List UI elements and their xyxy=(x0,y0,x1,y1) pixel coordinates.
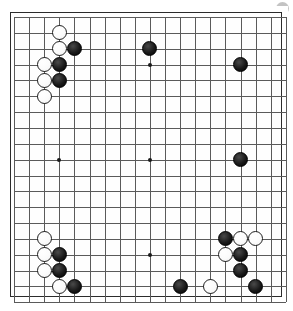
stone-white[interactable] xyxy=(203,279,218,294)
stone-white[interactable] xyxy=(248,231,263,246)
stone-white[interactable] xyxy=(37,247,52,262)
stone-black[interactable] xyxy=(173,279,188,294)
stone-black[interactable] xyxy=(248,279,263,294)
stone-white[interactable] xyxy=(37,231,52,246)
stone-white[interactable] xyxy=(233,231,248,246)
stone-black[interactable] xyxy=(142,41,157,56)
stone-black[interactable] xyxy=(233,57,248,72)
stone-black[interactable] xyxy=(233,263,248,278)
stone-black[interactable] xyxy=(233,152,248,167)
stone-black[interactable] xyxy=(52,73,67,88)
stone-white[interactable] xyxy=(37,57,52,72)
stone-white[interactable] xyxy=(37,263,52,278)
stone-black[interactable] xyxy=(233,247,248,262)
stone-black[interactable] xyxy=(218,231,233,246)
stone-black[interactable] xyxy=(52,263,67,278)
stone-black[interactable] xyxy=(52,247,67,262)
stone-white[interactable] xyxy=(52,25,67,40)
stone-white[interactable] xyxy=(52,279,67,294)
stones-layer[interactable] xyxy=(4,6,288,304)
stone-white[interactable] xyxy=(37,73,52,88)
go-diagram-app xyxy=(0,0,293,311)
stone-black[interactable] xyxy=(52,57,67,72)
go-board[interactable] xyxy=(4,6,288,304)
stone-white[interactable] xyxy=(52,41,67,56)
stone-black[interactable] xyxy=(67,41,82,56)
stone-black[interactable] xyxy=(67,279,82,294)
stone-white[interactable] xyxy=(218,247,233,262)
stone-white[interactable] xyxy=(37,89,52,104)
